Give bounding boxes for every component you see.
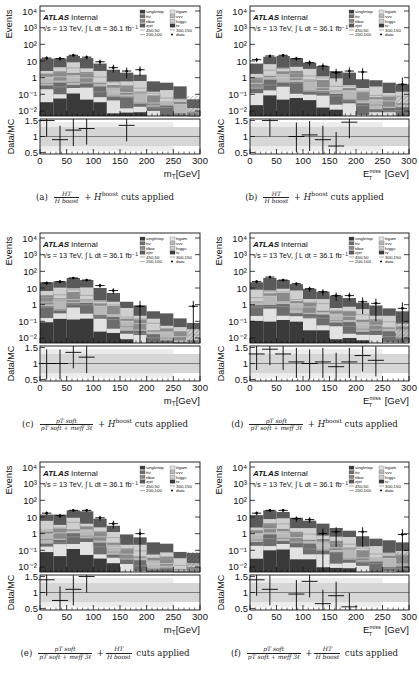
x-tick-label: 200 xyxy=(348,382,364,393)
atlas-status: Internal xyxy=(281,240,308,249)
figure-caption: (f)pT softpT soft + meff 3ℓ +HTH boost c… xyxy=(210,646,419,660)
caption-fraction: HTH boost xyxy=(314,646,340,660)
x-tick-label: 150 xyxy=(112,611,128,622)
x-tick-label: 200 xyxy=(139,382,155,393)
y-tick-label: 10² xyxy=(23,39,37,50)
legend-entry: data xyxy=(176,488,185,493)
y-tick-label: 1 xyxy=(32,299,37,310)
y-tick-label: 10² xyxy=(23,266,37,277)
caption-label: (a) xyxy=(36,192,48,202)
x-tick-label: 200 xyxy=(348,611,364,622)
ratio-panel: 1.510.5Data/MC xyxy=(6,342,200,385)
y-axis-label: Events xyxy=(3,465,14,494)
y-tick-label: 10⁴ xyxy=(232,462,247,473)
x-tick-label: 250 xyxy=(375,611,391,622)
x-tick-label: 0 xyxy=(37,155,42,166)
y-tick-label: 1 xyxy=(32,72,37,83)
y-tick-label: 1 xyxy=(242,528,247,539)
ratio-axis-label: Data/MC xyxy=(6,345,16,381)
atlas-status: Internal xyxy=(281,13,308,22)
x-tick-label: 300 xyxy=(401,155,417,166)
figure-caption: (d)pT softpT soft + meff 3ℓ + Hboost cut… xyxy=(210,417,419,432)
ratio-tick-label: 1 xyxy=(243,358,248,369)
caption-label: (f) xyxy=(231,648,241,658)
legend-entry: 200,100 xyxy=(146,259,162,264)
x-axis-label: mT[GeV] xyxy=(164,395,200,407)
atlas-label: ATLAS xyxy=(252,469,280,478)
legend-entry: 200,100 xyxy=(355,259,371,264)
energy-lumi-label: √s = 13 TeV, ∫ L dt = 36.1 fb⁻¹ xyxy=(43,24,138,33)
caption-fraction: HTH boost xyxy=(106,646,132,660)
atlas-label: ATLAS xyxy=(42,13,70,22)
x-tick-label: 250 xyxy=(165,382,181,393)
x-tick-label: 150 xyxy=(322,155,338,166)
ratio-axis-label: Data/MC xyxy=(6,118,16,154)
y-tick-label: 1 xyxy=(242,299,247,310)
x-tick-label: 50 xyxy=(61,382,72,393)
y-tick-label: 10 xyxy=(26,283,37,294)
x-tick-label: 250 xyxy=(165,155,181,166)
ratio-tick-label: 1 xyxy=(243,131,248,142)
ratio-axis-label: Data/MC xyxy=(216,118,226,154)
y-tick-label: 10⁴ xyxy=(232,233,247,244)
y-tick-label: 1 xyxy=(32,528,37,539)
atlas-status: Internal xyxy=(71,240,98,249)
legend-entry: data xyxy=(385,488,394,493)
y-tick-label: 10² xyxy=(233,266,247,277)
y-tick-label: 10³ xyxy=(233,478,247,489)
energy-lumi-label: √s = 13 TeV, ∫ L dt = 36.1 fb⁻¹ xyxy=(43,251,138,260)
x-tick-label: 300 xyxy=(401,382,417,393)
y-tick-label: 10⁴ xyxy=(232,6,247,17)
ratio-tick-label: 1.5 xyxy=(235,115,248,126)
caption-label: (d) xyxy=(231,419,243,429)
x-tick-label: 250 xyxy=(375,155,391,166)
x-tick-label: 200 xyxy=(348,155,364,166)
y-tick-label: 10² xyxy=(23,495,37,506)
x-tick-label: 100 xyxy=(295,155,311,166)
y-tick-label: 10 xyxy=(236,283,247,294)
y-tick-label: 10 xyxy=(236,56,247,67)
x-tick-label: 0 xyxy=(37,382,42,393)
x-tick-label: 50 xyxy=(271,382,282,393)
atlas-label: ATLAS xyxy=(42,469,70,478)
y-tick-label: 1 xyxy=(242,72,247,83)
y-axis-label: Events xyxy=(3,236,14,265)
ratio-tick-label: 1 xyxy=(243,587,248,598)
y-tick-label: 10³ xyxy=(23,249,37,260)
legend-entry: data xyxy=(176,259,185,264)
x-tick-label: 250 xyxy=(165,611,181,622)
x-tick-label: 300 xyxy=(192,155,208,166)
x-tick-label: 200 xyxy=(139,611,155,622)
y-tick-label: 10⁻¹ xyxy=(18,316,37,327)
ratio-tick-label: 0.5 xyxy=(235,603,248,614)
legend: singletopttgamttvvvvttbarhiggszjettv450,… xyxy=(349,236,401,264)
atlas-status: Internal xyxy=(281,469,308,478)
x-tick-label: 100 xyxy=(85,611,101,622)
y-tick-label: 10⁻¹ xyxy=(228,545,247,556)
ratio-panel: 1.510.5Data/MC xyxy=(6,115,200,158)
x-tick-label: 50 xyxy=(61,611,72,622)
figure-caption: (e)pT softpT soft + meff 3ℓ +HTH boost c… xyxy=(0,646,210,660)
ratio-axis-label: Data/MC xyxy=(216,574,226,610)
ratio-tick-label: 0.5 xyxy=(25,374,38,385)
ratio-panel: 1.510.5Data/MC xyxy=(216,342,409,385)
caption-fraction: pT softpT soft + meff 3ℓ xyxy=(247,646,301,660)
x-tick-label: 300 xyxy=(401,611,417,622)
panel-d: 10⁴10³10²10110⁻¹10⁻²EventsATLASInternal√… xyxy=(210,227,419,456)
atlas-label: ATLAS xyxy=(42,240,70,249)
panel-a: 10⁴10³10²10110⁻¹10⁻²EventsATLASInternal√… xyxy=(0,0,210,227)
x-tick-label: 300 xyxy=(192,611,208,622)
y-tick-label: 10⁻¹ xyxy=(228,316,247,327)
caption-label: (c) xyxy=(22,419,34,429)
legend-entry: data xyxy=(385,259,394,264)
legend-entry: data xyxy=(385,32,394,37)
ratio-tick-label: 1 xyxy=(33,358,38,369)
y-axis-label: Events xyxy=(213,236,224,265)
legend: singletopttgamttvvvvttbarhiggszjettv450,… xyxy=(140,465,192,493)
legend-entry: 200,100 xyxy=(355,32,371,37)
y-tick-label: 10 xyxy=(26,56,37,67)
caption-fraction: HTH boost xyxy=(54,191,80,205)
x-tick-label: 100 xyxy=(295,611,311,622)
caption-label: (e) xyxy=(21,648,33,658)
energy-lumi-label: √s = 13 TeV, ∫ L dt = 36.1 fb⁻¹ xyxy=(43,480,138,489)
